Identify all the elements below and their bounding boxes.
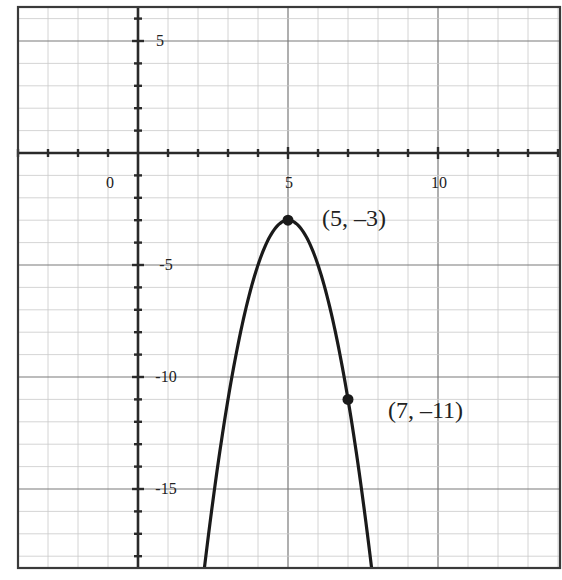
- data-point: [343, 394, 354, 405]
- y-tick-label-neg5: -5: [159, 256, 172, 273]
- y-tick-label-neg10: -10: [155, 368, 176, 385]
- x-tick-label-0: 0: [106, 174, 114, 191]
- data-point: [283, 215, 294, 226]
- parabola-graph: 0 5 10 5 -5 -10 -15 (5, –3) (7, –11): [0, 0, 562, 580]
- vertex-annotation: (5, –3): [322, 205, 386, 231]
- x-tick-label-5: 5: [285, 174, 293, 191]
- x-tick-label-10: 10: [431, 174, 447, 191]
- point-annotation: (7, –11): [388, 397, 463, 423]
- y-tick-label-neg15: -15: [155, 480, 176, 497]
- grid-lines: [18, 7, 560, 568]
- y-tick-label-5: 5: [156, 32, 164, 49]
